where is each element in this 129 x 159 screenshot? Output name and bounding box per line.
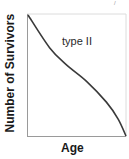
curve-annotation: type II — [62, 35, 92, 47]
survivorship-curve-type-ii — [28, 15, 126, 136]
survivorship-chart — [0, 0, 129, 159]
x-axis-label: Age — [61, 141, 84, 155]
corner-mark: / — [114, 0, 116, 6]
y-axis-label: Number of Survivors — [3, 18, 17, 133]
